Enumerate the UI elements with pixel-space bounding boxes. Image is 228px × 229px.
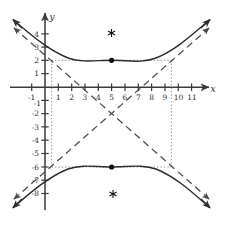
y-tick-label: -5: [32, 149, 40, 158]
y-tick-label: -6: [32, 163, 40, 172]
x-tick-label: 2: [69, 93, 74, 102]
x-axis-label: x: [210, 84, 215, 94]
plot-canvas: -1 1 2 3 4 5 6 7 8 9 10 11 4 3 2 1 -1 -2…: [0, 0, 228, 229]
x-tick-label: 6: [123, 93, 128, 102]
hyperbola-graph-figure: -1 1 2 3 4 5 6 7 8 9 10 11 4 3 2 1 -1 -2…: [0, 0, 228, 229]
y-tick-label: 1: [34, 69, 39, 78]
y-tick-label: 2: [34, 56, 39, 65]
y-tick-label: -3: [32, 123, 40, 132]
vertex-point-upper: [109, 58, 114, 63]
upper-branch-arrow-left: [13, 20, 22, 28]
x-tick-label: 1: [56, 93, 61, 102]
y-tick-label: 3: [34, 43, 39, 52]
y-tick-label: 4: [34, 30, 39, 39]
upper-branch: [13, 20, 210, 62]
y-tick-label: -1: [34, 99, 41, 108]
lower-branch-arrow-left: [13, 199, 22, 208]
y-tick-label: -2: [32, 109, 40, 118]
lower-branch: [13, 166, 210, 208]
upper-branch-arrow-right: [201, 20, 210, 28]
x-tick-label: 11: [187, 93, 197, 102]
y-tick-labels: 4 3 2 1 -1 -2 -3 -4 -5 -6 -7 -8: [32, 30, 41, 199]
focus-marker-lower-icon: [110, 190, 117, 198]
lower-branch-arrow-right: [201, 199, 210, 208]
focus-marker-upper-icon: [108, 29, 115, 37]
y-tick-label: -4: [32, 136, 40, 145]
x-tick-label: 5: [109, 93, 114, 102]
x-tick-label: 9: [163, 93, 168, 102]
x-tick-label: 7: [136, 93, 141, 102]
y-axis-label: y: [48, 12, 55, 22]
x-tick-labels: -1 1 2 3 4 5 6 7 8 9 10 11: [28, 93, 197, 102]
y-tick-label: -7: [32, 176, 40, 185]
y-tick-label: -8: [32, 189, 40, 198]
x-tick-label: 10: [174, 93, 184, 102]
x-tick-label: 8: [149, 93, 154, 102]
x-tick-label: 4: [96, 93, 101, 102]
vertex-point-lower: [109, 164, 114, 169]
x-tick-label: 3: [83, 93, 88, 102]
